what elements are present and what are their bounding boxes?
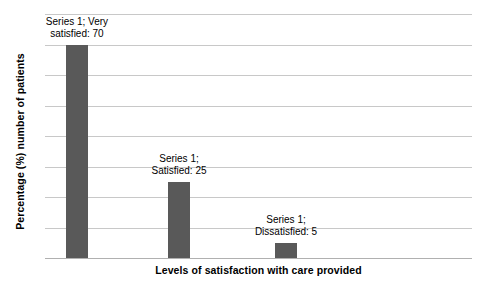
gridline <box>45 14 472 15</box>
bar <box>275 243 297 258</box>
x-axis-line <box>45 258 472 259</box>
gridline <box>45 45 472 46</box>
bar <box>168 182 190 258</box>
data-label-line-1: Series 1; <box>151 153 206 166</box>
data-label-line-2: Dissatisfied: 5 <box>255 226 317 239</box>
gridline <box>45 136 472 137</box>
x-axis-title: Levels of satisfaction with care provide… <box>45 264 472 276</box>
gridline <box>45 167 472 168</box>
data-label-line-2: satisfied: 70 <box>46 28 108 41</box>
data-label-line-1: Series 1; Very <box>46 16 108 29</box>
data-label: Series 1; Verysatisfied: 70 <box>46 16 108 41</box>
gridline <box>45 75 472 76</box>
y-axis-title: Percentage (%) number of patients <box>0 0 40 283</box>
gridline <box>45 197 472 198</box>
data-label: Series 1;Satisfied: 25 <box>151 153 206 178</box>
data-label-line-1: Series 1; <box>255 214 317 227</box>
bar-chart: Percentage (%) number of patients Series… <box>0 0 495 283</box>
gridline <box>45 106 472 107</box>
bar <box>66 45 88 259</box>
data-label-line-2: Satisfied: 25 <box>151 165 206 178</box>
data-label: Series 1;Dissatisfied: 5 <box>255 214 317 239</box>
